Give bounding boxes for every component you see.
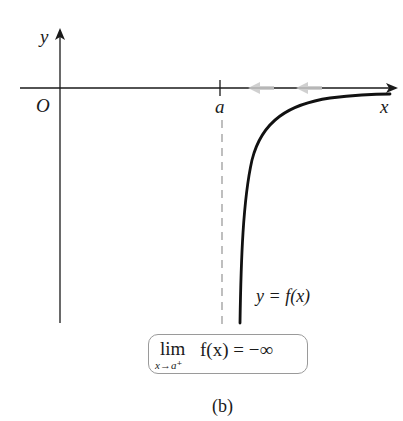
curve-label: y = f(x): [256, 287, 310, 305]
y-axis-label: y: [40, 27, 48, 46]
origin-label: O: [36, 96, 50, 115]
limit-subscript: x→a⁺: [155, 360, 182, 371]
figure-caption: (b): [212, 397, 233, 415]
limit-expression: f(x) = −∞: [200, 340, 273, 359]
x-axis-label: x: [380, 97, 388, 116]
tick-label-a: a: [215, 97, 225, 116]
limit-operator: lim: [160, 339, 185, 358]
